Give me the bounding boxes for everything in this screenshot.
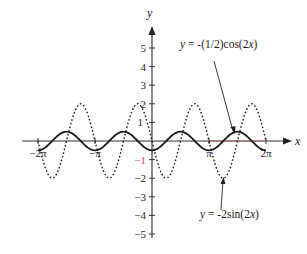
y-tick-label: −2 xyxy=(134,172,146,184)
y-tick-label: 1 xyxy=(138,116,144,128)
eq-sin-end: ) xyxy=(255,208,259,221)
y-tick-label: −5 xyxy=(134,228,146,240)
y-tick-label: −3 xyxy=(134,191,146,203)
equation-label-sin: y = -2sin(2x) xyxy=(199,208,259,221)
y-axis-label: y xyxy=(146,6,153,20)
equation-label-cos: y = -(1/2)cos(2x) xyxy=(179,38,258,51)
y-tick-label: 4 xyxy=(141,61,147,73)
x-axis-label: x xyxy=(294,134,301,148)
chart: 54321−1−2−3−4−5 −2π−ππ2π y x y = -(1/2)c… xyxy=(0,0,307,254)
y-axis-arrow-icon xyxy=(149,26,156,35)
eq-cos-rest: = -(1/2)cos(2 xyxy=(185,38,249,51)
sin-annotation-leader xyxy=(221,180,223,210)
y-tick-label: 2 xyxy=(141,98,147,110)
eq-sin-rest: = -2sin(2 xyxy=(205,208,250,221)
y-tick-label: −4 xyxy=(134,209,146,221)
x-axis-arrow-icon xyxy=(283,138,292,145)
y-tick-label: 5 xyxy=(141,42,147,54)
cos-annotation-leader xyxy=(214,61,233,131)
y-tick-label: 3 xyxy=(141,79,147,91)
eq-cos-end: ) xyxy=(254,38,258,51)
y-tick-label: −1 xyxy=(134,154,146,166)
